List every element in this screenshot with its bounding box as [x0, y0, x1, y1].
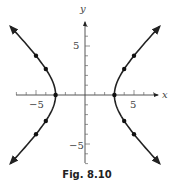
data-point	[132, 54, 136, 58]
data-point	[34, 132, 38, 136]
data-point	[44, 67, 48, 71]
data-point	[34, 54, 38, 58]
data-point	[122, 119, 126, 123]
data-point	[132, 132, 136, 136]
x-tick-label-neg5: −5	[29, 99, 44, 110]
data-point	[44, 119, 48, 123]
hyperbola-figure: x y −5 5 5 −5 Fig. 8.10	[0, 0, 174, 184]
y-tick-label-pos5: 5	[73, 40, 79, 51]
plot-area: x y −5 5 5 −5	[0, 0, 174, 184]
y-tick-label-neg5: −5	[69, 140, 84, 151]
x-axis-label: x	[162, 89, 168, 100]
data-point	[122, 67, 126, 71]
axes: x y −5 5 5 −5	[16, 3, 168, 164]
x-tick-label-pos5: 5	[130, 99, 136, 110]
y-axis-label: y	[79, 3, 86, 14]
data-point	[112, 93, 116, 97]
figure-caption: Fig. 8.10	[0, 169, 174, 180]
data-point	[53, 93, 57, 97]
